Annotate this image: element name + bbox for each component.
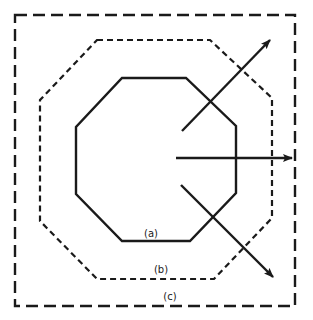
diagram-svg: (a) (b) (c): [0, 0, 313, 320]
lower-right-arrow: [181, 185, 273, 277]
label-a: (a): [144, 228, 158, 239]
label-b: (b): [154, 264, 168, 275]
label-c: (c): [163, 291, 176, 302]
diagram-canvas: (a) (b) (c): [0, 0, 313, 320]
